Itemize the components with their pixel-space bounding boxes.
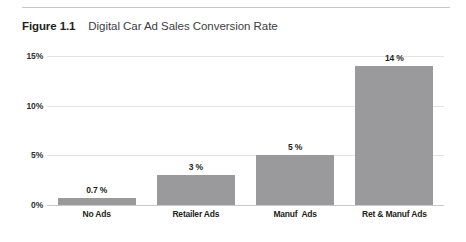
- figure-container: Figure 1.1Digital Car Ad Sales Conversio…: [0, 0, 466, 242]
- bar[interactable]: [355, 66, 433, 205]
- bar-slot: 5 %: [256, 56, 334, 205]
- y-axis-tick-label: 15%: [3, 51, 43, 61]
- y-axis-tick-label: 10%: [3, 101, 43, 111]
- y-axis-tick-label: 0%: [3, 200, 43, 210]
- y-axis: 0%5%10%15%: [0, 56, 43, 205]
- bar-slot: 0.7 %: [58, 56, 136, 205]
- bar-value-label: 0.7 %: [58, 185, 136, 195]
- x-axis-category-label: Retailer Ads: [146, 208, 245, 220]
- figure-caption: Figure 1.1Digital Car Ad Sales Conversio…: [22, 16, 452, 34]
- bar[interactable]: [256, 155, 334, 205]
- bar[interactable]: [58, 198, 136, 205]
- bar-value-label: 3 %: [157, 162, 235, 172]
- bar-value-label: 14 %: [355, 53, 433, 63]
- top-divider-rule: [22, 7, 450, 8]
- figure-label: Figure 1.1: [22, 20, 75, 32]
- bar-slot: 3 %: [157, 56, 235, 205]
- bar[interactable]: [157, 175, 235, 205]
- y-axis-tick-label: 5%: [3, 150, 43, 160]
- bar-series: 0.7 %3 %5 %14 %: [47, 56, 444, 205]
- x-axis-labels: No AdsRetailer AdsManuf AdsRet & Manuf A…: [47, 208, 444, 222]
- page-title: Digital Car Ad Sales Conversion Rate: [88, 20, 277, 32]
- bar-slot: 14 %: [355, 56, 433, 205]
- gridline-0: [47, 205, 444, 206]
- x-axis-category-label: Manuf Ads: [246, 208, 345, 220]
- x-axis-category-label: Ret & Manuf Ads: [345, 208, 444, 220]
- bar-value-label: 5 %: [256, 142, 334, 152]
- x-axis-category-label: No Ads: [47, 208, 146, 220]
